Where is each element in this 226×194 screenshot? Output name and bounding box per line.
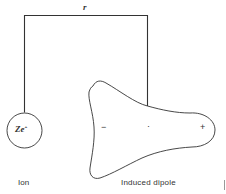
dipole-center-mark: · xyxy=(147,121,150,131)
distance-connector-line xyxy=(25,16,148,113)
ion-caption: Ion xyxy=(18,178,29,187)
diagram-canvas xyxy=(0,0,226,194)
induced-dipole-shape xyxy=(89,81,215,178)
distance-label: r xyxy=(83,2,87,12)
ion-charge-symbol: Ze+ xyxy=(15,124,27,134)
ion-symbol-text: Ze xyxy=(15,124,25,134)
dipole-positive-sign: + xyxy=(200,122,205,132)
induced-dipole-caption: Induced dipole xyxy=(121,178,176,187)
dipole-negative-sign: − xyxy=(101,122,106,132)
page-edge-mark xyxy=(224,180,225,190)
ion-induced-dipole-diagram: r Ze+ − · + Ion Induced dipole xyxy=(0,0,226,194)
ion-charge-superscript: + xyxy=(25,124,28,129)
